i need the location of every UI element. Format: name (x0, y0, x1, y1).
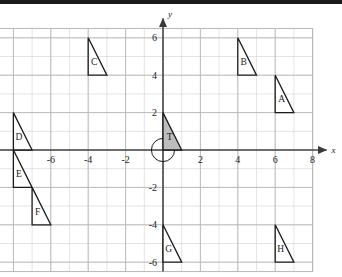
y-tick-label: -4 (149, 219, 157, 230)
triangle-label-t: T (167, 132, 173, 142)
coordinate-grid-figure: -6-4-22468 642-2-4-6 x y TABCDEFGH (0, 0, 342, 277)
x-tick-label: 8 (310, 154, 315, 165)
y-tick-label: 2 (152, 107, 157, 118)
x-tick-label: -4 (84, 154, 92, 165)
triangle-label-b: B (241, 57, 247, 67)
triangle-label-g: G (165, 244, 172, 254)
triangle-label-f: F (35, 207, 40, 217)
y-tick-label: -2 (149, 182, 157, 193)
y-tick-label: 4 (152, 70, 157, 81)
triangle-label-d: D (16, 132, 23, 142)
x-tick-label: 2 (198, 154, 203, 165)
x-tick-label: 4 (235, 154, 240, 165)
triangle-label-h: H (277, 244, 284, 254)
triangle-label-e: E (16, 169, 22, 179)
y-tick-label: 6 (152, 32, 157, 43)
y-axis-label: y (167, 9, 172, 19)
coordinate-plane-svg: -6-4-22468 642-2-4-6 x y TABCDEFGH (0, 0, 342, 277)
x-axis-label: x (331, 145, 336, 155)
x-axis-tick-labels: -6-4-22468 (47, 154, 315, 165)
x-tick-label: -6 (47, 154, 55, 165)
y-tick-label: -6 (149, 257, 157, 268)
triangle-label-a: A (278, 94, 285, 104)
x-tick-label: -2 (121, 154, 129, 165)
triangle-label-c: C (91, 57, 97, 67)
x-tick-label: 6 (273, 154, 278, 165)
